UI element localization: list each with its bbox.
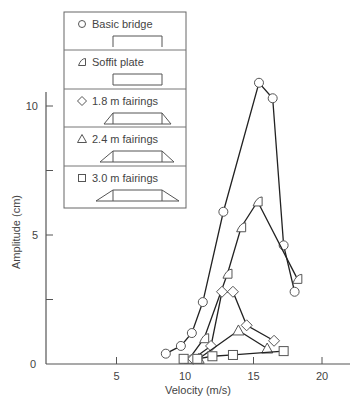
soffit-marker-icon: [237, 223, 246, 232]
legend-label: 1.8 m fairings: [92, 95, 159, 107]
square-marker-icon: [79, 175, 86, 182]
y-tick-label: 10: [26, 100, 38, 112]
soffit-marker-icon: [200, 334, 209, 343]
x-axis-label: Velocity (m/s): [165, 384, 231, 396]
circle-marker-icon: [79, 21, 86, 28]
circle-marker-icon: [254, 78, 263, 87]
square-marker-icon: [279, 347, 288, 356]
diamond-marker-icon: [241, 320, 252, 331]
soffit-marker-icon: [223, 269, 232, 278]
circle-marker-icon: [176, 341, 185, 350]
y-tick-label: 5: [32, 229, 38, 241]
soffit-marker-icon: [253, 197, 262, 206]
circle-marker-icon: [198, 298, 207, 307]
diamond-marker-icon: [269, 335, 280, 346]
series-soffit: [185, 197, 302, 363]
y-axis-label: Amplitude (cm): [10, 195, 22, 269]
square-marker-icon: [208, 352, 217, 361]
legend-label: 3.0 m fairings: [92, 172, 159, 184]
legend-label: 2.4 m fairings: [92, 133, 159, 145]
diamond-marker-icon: [227, 286, 238, 297]
x-tick-label: 20: [316, 370, 328, 382]
x-tick-label: 15: [247, 370, 259, 382]
x-tick-label: 10: [179, 370, 191, 382]
square-marker-icon: [179, 354, 188, 363]
circle-marker-icon: [268, 94, 277, 103]
circle-marker-icon: [219, 207, 228, 216]
square-marker-icon: [228, 350, 237, 359]
amplitude-velocity-chart: 51015200510 Basic bridgeSoffit plate1.8 …: [0, 0, 362, 407]
legend: Basic bridgeSoffit plate1.8 m fairings2.…: [64, 12, 186, 208]
circle-marker-icon: [290, 287, 299, 296]
y-tick-label: 0: [30, 358, 36, 370]
circle-marker-icon: [161, 349, 170, 358]
diamond-marker-icon: [216, 286, 227, 297]
legend-label: Basic bridge: [92, 18, 153, 30]
soffit-marker-icon: [293, 274, 302, 283]
circle-marker-icon: [187, 329, 196, 338]
square-marker-icon: [193, 354, 202, 363]
legend-label: Soffit plate: [92, 56, 144, 68]
x-tick-label: 5: [113, 370, 119, 382]
